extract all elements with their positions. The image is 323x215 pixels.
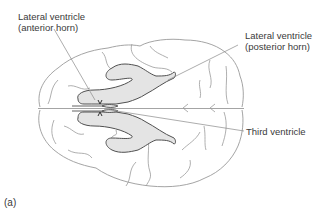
lateral-ventricle-left xyxy=(78,64,176,104)
label-lateral-ventricle-anterior-horn: Lateral ventricle (anterior horn) xyxy=(18,11,85,33)
label-line-1: Third ventricle xyxy=(246,126,306,137)
label-lateral-ventricle-posterior-horn: Lateral ventricle (posterior horn) xyxy=(245,30,312,52)
figure-label: (a) xyxy=(4,197,16,208)
label-third-ventricle: Third ventricle xyxy=(246,126,306,137)
leader-line-posterior-horn xyxy=(168,45,238,80)
label-line-1: Lateral ventricle xyxy=(245,30,312,41)
label-line-1: Lateral ventricle xyxy=(18,11,85,22)
leader-line-anterior-horn xyxy=(54,29,95,100)
label-line-2: (anterior horn) xyxy=(18,22,85,33)
label-line-2: (posterior horn) xyxy=(245,41,312,52)
